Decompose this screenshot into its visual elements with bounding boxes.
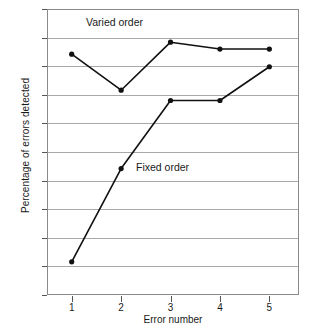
y-axis-tick-mark bbox=[42, 123, 47, 124]
y-axis-tick-mark bbox=[42, 295, 47, 296]
gridline bbox=[48, 152, 298, 153]
y-axis-tick-mark bbox=[42, 38, 47, 39]
gridline bbox=[48, 238, 298, 239]
x-axis-tick-label: 5 bbox=[257, 302, 281, 313]
y-axis-tick-mark bbox=[42, 9, 47, 10]
y-axis-tick-mark bbox=[42, 66, 47, 67]
y-axis-tick-mark bbox=[42, 152, 47, 153]
x-axis-title: Error number bbox=[47, 314, 299, 325]
gridline bbox=[48, 66, 298, 67]
line-chart: Percentage of errors detected 5055606570… bbox=[0, 0, 309, 336]
series-label-fixed-order: Fixed order bbox=[136, 161, 189, 173]
x-axis-tick-label: 1 bbox=[60, 302, 84, 313]
plot-area bbox=[47, 9, 299, 295]
x-axis-tick-label: 2 bbox=[109, 302, 133, 313]
y-axis-tick-mark bbox=[42, 266, 47, 267]
gridline bbox=[48, 38, 298, 39]
x-axis-tick-label: 4 bbox=[208, 302, 232, 313]
y-axis-tick-mark bbox=[42, 95, 47, 96]
gridline bbox=[48, 209, 298, 210]
x-axis-tick-label: 3 bbox=[159, 302, 183, 313]
y-axis-title: Percentage of errors detected bbox=[20, 36, 31, 256]
y-axis-tick-mark bbox=[42, 238, 47, 239]
gridline bbox=[48, 95, 298, 96]
series-label-varied-order: Varied order bbox=[86, 16, 143, 28]
gridline bbox=[48, 266, 298, 267]
y-axis-tick-mark bbox=[42, 209, 47, 210]
gridline bbox=[48, 181, 298, 182]
y-axis-tick-mark bbox=[42, 181, 47, 182]
gridline bbox=[48, 123, 298, 124]
